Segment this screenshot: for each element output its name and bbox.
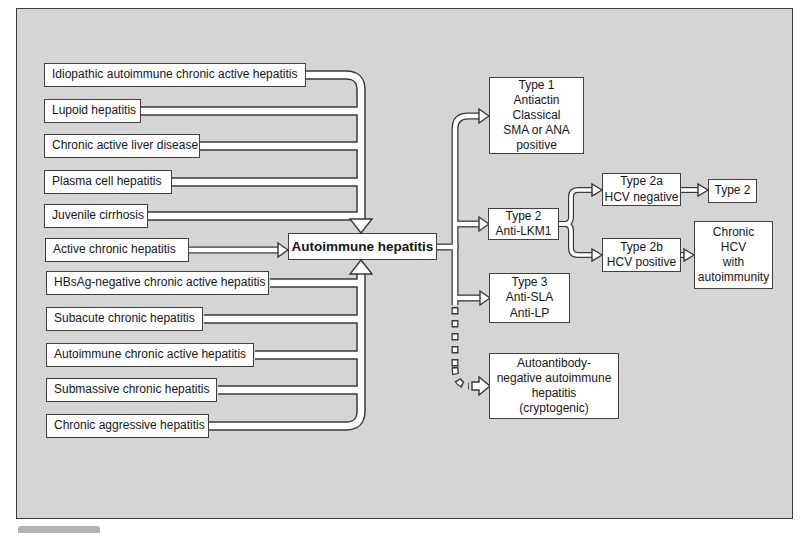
box-chronic-hcv-with-autoimmunity: Chronic HCV with autoimmunity [694, 221, 773, 289]
box-autoantibody-negative-cryptogenic: Autoantibody- negative autoimmune hepati… [489, 353, 619, 419]
arrow-to-type2-outcome-icon [698, 184, 708, 196]
arrow-to-type2b-icon [592, 249, 602, 261]
box-type2-outcome: Type 2 [708, 179, 757, 203]
arrow-to-autoantibody-icon [472, 377, 490, 395]
arrow-to-type1-icon [479, 109, 489, 123]
box-hbsag-negative-chronic-active-hepatitis: HBsAg-negative chronic active hepatitis [46, 271, 269, 295]
box-submassive-chronic-hepatitis: Submassive chronic hepatitis [46, 378, 217, 402]
box-lupoid-hepatitis: Lupoid hepatitis [44, 99, 141, 123]
arrow-down-into-center-icon [350, 219, 372, 233]
box-autoimmune-chronic-active-hepatitis: Autoimmune chronic active hepatitis [46, 343, 254, 367]
arrow-to-type2a-icon [592, 184, 602, 196]
box-chronic-active-liver-disease: Chronic active liver disease [44, 134, 200, 158]
box-type1: Type 1 Antiactin Classical SMA or ANA po… [489, 77, 584, 154]
box-juvenile-cirrhosis: Juvenile cirrhosis [44, 204, 148, 228]
box-type3: Type 3 Anti-SLA Anti-LP [489, 273, 570, 323]
arrow-to-chronic-hcv-icon [684, 249, 694, 261]
arrow-active-chronic-icon [278, 243, 288, 257]
box-active-chronic-hepatitis: Active chronic hepatitis [45, 238, 189, 262]
box-type2b-hcv-positive: Type 2b HCV positive [602, 238, 681, 272]
box-chronic-aggressive-hepatitis: Chronic aggressive hepatitis [46, 414, 209, 438]
box-type2a-hcv-negative: Type 2a HCV negative [602, 173, 681, 206]
box-idiopathic-autoimmune-chronic-active-hepatitis: Idiopathic autoimmune chronic active hep… [44, 63, 306, 87]
box-type2: Type 2 Anti-LKM1 [488, 208, 559, 240]
box-plasma-cell-hepatitis: Plasma cell hepatitis [44, 170, 172, 194]
box-autoimmune-hepatitis: Autoimmune hepatitis [288, 233, 437, 260]
box-subacute-chronic-hepatitis: Subacute chronic hepatitis [46, 307, 203, 331]
arrow-up-into-center-icon [350, 260, 372, 274]
